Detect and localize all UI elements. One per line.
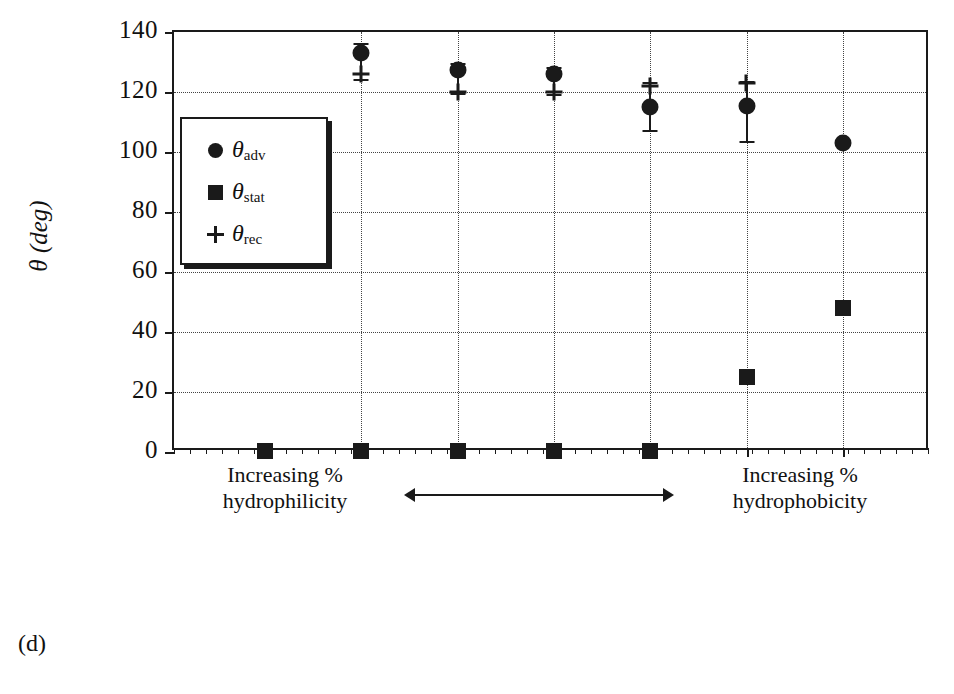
gridline-vertical bbox=[843, 32, 844, 448]
x-tick-minor bbox=[415, 448, 416, 454]
x-tick-minor bbox=[736, 448, 737, 454]
annotation-hydrophobicity-line1: Increasing % bbox=[700, 462, 900, 488]
legend-label: θrec bbox=[232, 220, 262, 248]
x-tick-minor bbox=[190, 448, 191, 454]
panel-label: (d) bbox=[18, 630, 46, 657]
error-bar-cap bbox=[739, 141, 754, 143]
y-tick-mark bbox=[165, 32, 174, 34]
x-category-label: 1.5% B67 bbox=[465, 675, 491, 694]
y-tick-label: 120 bbox=[90, 77, 158, 102]
legend-item-adv: θadv bbox=[198, 129, 326, 171]
x-category-label: Untreated bbox=[272, 675, 298, 694]
x-category-label: 4.5% B67 bbox=[657, 675, 683, 694]
y-tick-mark bbox=[165, 452, 174, 454]
annotation-hydrophilicity-line2: hydrophilicity bbox=[190, 488, 380, 514]
x-tick-minor bbox=[527, 448, 528, 454]
x-tick-minor bbox=[896, 448, 897, 454]
x-tick-minor bbox=[784, 448, 785, 454]
x-category-label: 6.0% B67 bbox=[754, 675, 780, 694]
gridline-vertical bbox=[361, 32, 362, 448]
data-point-filled-square bbox=[450, 443, 466, 459]
y-tick-label: 40 bbox=[90, 317, 158, 342]
gridline-horizontal bbox=[174, 272, 926, 273]
data-point-filled-circle bbox=[738, 97, 755, 114]
legend-plus-icon bbox=[198, 226, 232, 243]
data-point-plus bbox=[738, 75, 755, 92]
data-point-filled-square bbox=[739, 369, 755, 385]
data-point-filled-square bbox=[257, 443, 273, 459]
direction-arrow-icon bbox=[404, 487, 674, 503]
x-tick-minor bbox=[399, 448, 400, 454]
y-tick-mark bbox=[165, 392, 174, 394]
x-tick-minor bbox=[720, 448, 721, 454]
x-tick-minor bbox=[688, 448, 689, 454]
y-tick-mark bbox=[165, 212, 174, 214]
figure-panel-d: θ (deg) 020406080100120140 θadvθstatθrec… bbox=[0, 0, 954, 694]
data-point-filled-square bbox=[353, 443, 369, 459]
annotation-hydrophilicity-line1: Increasing % bbox=[190, 462, 380, 488]
x-tick-minor bbox=[254, 448, 255, 454]
x-tick-minor bbox=[222, 448, 223, 454]
x-tick-minor bbox=[880, 448, 881, 454]
x-tick-minor bbox=[447, 448, 448, 454]
x-tick-minor bbox=[495, 448, 496, 454]
data-point-filled-circle bbox=[834, 135, 851, 152]
x-tick-minor bbox=[431, 448, 432, 454]
legend-label: θadv bbox=[232, 136, 265, 164]
y-axis-label: θ (deg) bbox=[16, 180, 56, 300]
x-tick-major bbox=[843, 448, 845, 457]
gridline-horizontal bbox=[174, 332, 926, 333]
y-tick-mark bbox=[165, 332, 174, 334]
data-point-filled-square bbox=[642, 443, 658, 459]
y-tick-label: 80 bbox=[90, 197, 158, 222]
x-tick-minor bbox=[174, 448, 175, 454]
x-tick-minor bbox=[206, 448, 207, 454]
legend-label: θstat bbox=[232, 178, 265, 206]
x-tick-minor bbox=[704, 448, 705, 454]
x-tick-minor bbox=[768, 448, 769, 454]
data-point-plus bbox=[545, 84, 562, 101]
x-tick-minor bbox=[238, 448, 239, 454]
y-tick-label: 140 bbox=[90, 17, 158, 42]
x-category-label: 0.5% B67 bbox=[368, 675, 394, 694]
data-point-plus bbox=[642, 78, 659, 95]
y-tick-label: 60 bbox=[90, 257, 158, 282]
x-tick-minor bbox=[511, 448, 512, 454]
x-tick-minor bbox=[928, 448, 929, 454]
x-tick-major bbox=[747, 448, 749, 457]
x-tick-minor bbox=[383, 448, 384, 454]
x-tick-minor bbox=[351, 448, 352, 454]
y-tick-mark bbox=[165, 152, 174, 154]
data-point-filled-circle bbox=[353, 45, 370, 62]
x-category-label: 3.0% B67 bbox=[561, 675, 587, 694]
x-tick-minor bbox=[607, 448, 608, 454]
x-tick-minor bbox=[479, 448, 480, 454]
gridline-horizontal bbox=[174, 392, 926, 393]
annotation-hydrophilicity: Increasing % hydrophilicity bbox=[190, 462, 380, 514]
x-tick-minor bbox=[912, 448, 913, 454]
data-point-filled-circle bbox=[642, 99, 659, 116]
y-tick-label: 100 bbox=[90, 137, 158, 162]
x-category-label: Pure B67 bbox=[850, 675, 876, 694]
legend-item-rec: θrec bbox=[198, 213, 326, 255]
x-tick-minor bbox=[816, 448, 817, 454]
data-point-plus bbox=[449, 84, 466, 101]
x-tick-minor bbox=[639, 448, 640, 454]
x-tick-minor bbox=[575, 448, 576, 454]
plot-area: θadvθstatθrec bbox=[172, 30, 928, 450]
legend-filled-square-icon bbox=[198, 185, 232, 200]
x-tick-minor bbox=[832, 448, 833, 454]
data-point-filled-square bbox=[546, 443, 562, 459]
data-point-plus bbox=[353, 66, 370, 83]
x-tick-minor bbox=[864, 448, 865, 454]
x-tick-minor bbox=[335, 448, 336, 454]
y-tick-mark bbox=[165, 272, 174, 274]
data-point-filled-circle bbox=[449, 61, 466, 78]
x-tick-minor bbox=[543, 448, 544, 454]
data-point-filled-circle bbox=[545, 66, 562, 83]
x-tick-minor bbox=[591, 448, 592, 454]
y-tick-mark bbox=[165, 92, 174, 94]
y-tick-label: 20 bbox=[90, 377, 158, 402]
x-tick-minor bbox=[623, 448, 624, 454]
x-tick-minor bbox=[302, 448, 303, 454]
